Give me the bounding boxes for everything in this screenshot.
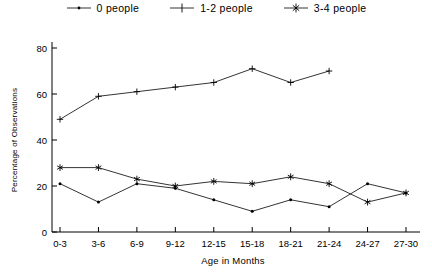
y-axis-tick-label: 20: [36, 181, 47, 192]
data-point-marker: [135, 182, 138, 185]
x-axis-tick-label: 27-30: [394, 238, 418, 249]
series-line: [60, 168, 406, 203]
series-3-4-people: [57, 164, 409, 205]
series-layer: [57, 66, 409, 213]
y-axis-tick-label: 80: [36, 43, 47, 54]
x-axis-tick-label: 24-27: [355, 238, 379, 249]
x-axis-tick-label: 18-21: [279, 238, 303, 249]
plot-svg: 0204060800-33-66-99-1212-1515-1818-2121-…: [0, 0, 432, 276]
x-axis-tick-label: 9-12: [166, 238, 185, 249]
series-0-people: [59, 182, 408, 213]
series-line: [60, 69, 329, 120]
y-axis-tick-label: 0: [42, 227, 47, 238]
x-axis-tick-label: 6-9: [130, 238, 144, 249]
data-point-marker: [328, 205, 331, 208]
data-point-marker: [97, 201, 100, 204]
line-chart: 0 people 1-2 people 3-4 people 020406080…: [0, 0, 432, 276]
x-axis-tick-label: 21-24: [317, 238, 341, 249]
x-axis-title: Age in Months: [201, 255, 264, 266]
series-1-2-people: [57, 66, 333, 123]
y-axis-tick-label: 60: [36, 89, 47, 100]
x-axis-tick-label: 3-6: [92, 238, 106, 249]
y-axis-title: Percentage of Observations: [10, 88, 19, 192]
x-axis-tick-label: 0-3: [53, 238, 67, 249]
data-point-marker: [212, 198, 215, 201]
x-axis-tick-label: 12-15: [202, 238, 226, 249]
data-point-marker: [289, 198, 292, 201]
data-point-marker: [251, 210, 254, 213]
plot-area: 0204060800-33-66-99-1212-1515-1818-2121-…: [0, 0, 432, 276]
x-axis-tick-label: 15-18: [240, 238, 264, 249]
series-line: [60, 184, 406, 212]
data-point-marker: [366, 182, 369, 185]
y-axis-tick-label: 40: [36, 135, 47, 146]
data-point-marker: [59, 182, 62, 185]
